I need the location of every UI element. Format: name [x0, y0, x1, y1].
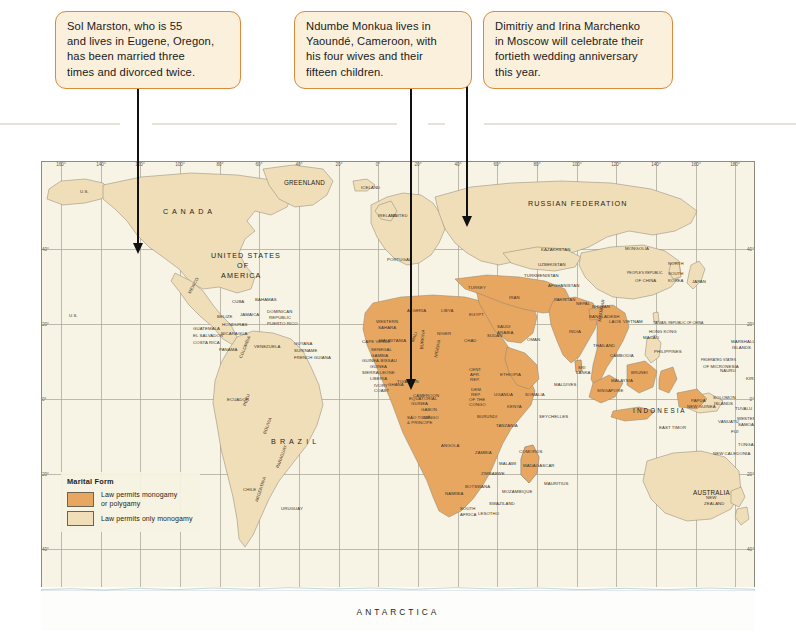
divider-rule	[0, 123, 120, 125]
callout-line: this year.	[495, 65, 661, 80]
legend-title: Marital Form	[67, 477, 193, 486]
divider-rule	[428, 123, 445, 125]
map-frame-right	[754, 161, 755, 631]
legend-label-line1: Law permits monogamy	[101, 491, 177, 498]
callout-line: has been married three	[67, 49, 229, 64]
callout-ndumbe-monkua: Ndumbe Monkua lives in Yaoundé, Cameroon…	[294, 11, 472, 89]
map-frame-top	[41, 161, 755, 162]
callout-marchenko: Dimitriy and Irina Marchenko in Moscow w…	[483, 11, 673, 89]
legend-swatch-monogamy	[67, 511, 94, 526]
callout-line: his four wives and their	[306, 49, 460, 64]
callout-line: fifteen children.	[306, 65, 460, 80]
legend-label-polygamy: Law permits monogamy or polygamy	[101, 490, 177, 508]
arrowhead-sol-marston	[133, 243, 143, 254]
land-svg	[41, 161, 755, 631]
divider-rule	[152, 123, 397, 125]
callout-sol-marston: Sol Marston, who is 55 and lives in Euge…	[55, 11, 241, 89]
callout-line: times and divorced twice.	[67, 65, 229, 80]
divider-rule	[484, 123, 796, 125]
legend-label-line2: or polygamy	[101, 500, 140, 507]
antarctica-coastline	[41, 587, 755, 591]
callout-line: and lives in Eugene, Oregon,	[67, 34, 229, 49]
callout-line: in Moscow will celebrate their	[495, 34, 661, 49]
legend-label-monogamy: Law permits only monogamy	[101, 514, 193, 523]
callout-line: Ndumbe Monkua lives in	[306, 19, 460, 34]
world-map[interactable]: 160°140°120°100°80°60°40°20°0°20°40°60°8…	[41, 161, 755, 631]
legend-label-line1: Law permits only monogamy	[101, 515, 193, 522]
map-frame-left	[41, 161, 42, 631]
callout-layer: Sol Marston, who is 55 and lives in Euge…	[0, 0, 796, 160]
antarctica-label: ANTARCTICA	[357, 607, 440, 617]
callout-line: Yaoundé, Cameroon, with	[306, 34, 460, 49]
callout-line: fortieth wedding anniversary	[495, 49, 661, 64]
landmasses	[41, 161, 755, 631]
legend-item-polygamy: Law permits monogamy or polygamy	[67, 490, 193, 508]
callout-line: Dimitriy and Irina Marchenko	[495, 19, 661, 34]
arrowhead-ndumbe-monkua	[406, 379, 416, 390]
arrowhead-marchenko	[462, 216, 472, 227]
legend-item-monogamy: Law permits only monogamy	[67, 511, 193, 526]
callout-line: Sol Marston, who is 55	[67, 19, 229, 34]
legend-swatch-polygamy	[67, 492, 94, 507]
map-legend: Marital Form Law permits monogamy or pol…	[61, 472, 200, 532]
